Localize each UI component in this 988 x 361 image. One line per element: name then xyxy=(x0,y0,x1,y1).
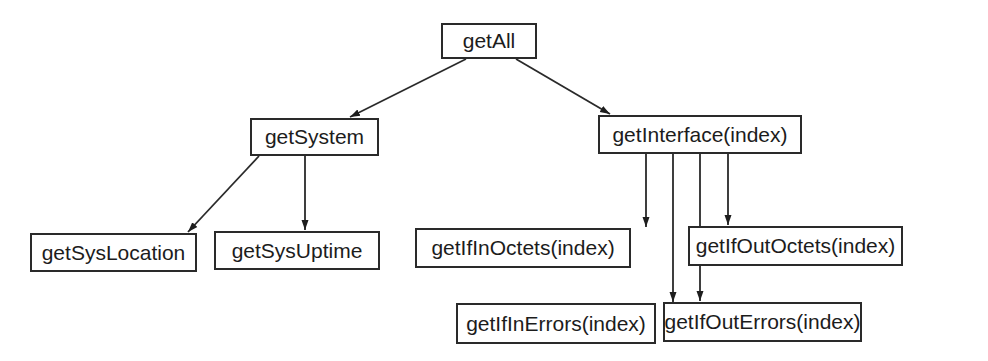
node-get-system: getSystem xyxy=(250,118,379,156)
node-get-if-in-errors: getIfInErrors(index) xyxy=(456,303,656,344)
edge-getAll-to-getSystem xyxy=(350,59,466,117)
node-label: getIfInErrors(index) xyxy=(466,312,646,336)
call-tree-diagram: getAll getSystem getInterface(index) get… xyxy=(0,0,988,361)
edge-getAll-to-getInterface xyxy=(516,59,610,114)
node-label: getIfOutOctets(index) xyxy=(696,234,896,258)
node-label: getSysLocation xyxy=(42,241,186,265)
node-get-sys-location: getSysLocation xyxy=(30,233,197,272)
node-label: getSysUptime xyxy=(232,239,363,263)
node-get-all: getAll xyxy=(441,23,537,59)
node-label: getIfOutErrors(index) xyxy=(664,310,860,334)
node-get-if-out-octets: getIfOutOctets(index) xyxy=(688,226,903,266)
node-label: getSystem xyxy=(265,125,364,149)
node-get-if-out-errors: getIfOutErrors(index) xyxy=(663,302,862,342)
node-label: getIfInOctets(index) xyxy=(431,236,614,260)
node-get-sys-uptime: getSysUptime xyxy=(214,231,380,270)
edge-getSystem-to-getSysLocation xyxy=(188,156,259,232)
node-get-if-in-octets: getIfInOctets(index) xyxy=(415,228,631,268)
node-label: getAll xyxy=(463,29,516,53)
node-get-interface: getInterface(index) xyxy=(598,115,802,154)
node-label: getInterface(index) xyxy=(612,123,787,147)
